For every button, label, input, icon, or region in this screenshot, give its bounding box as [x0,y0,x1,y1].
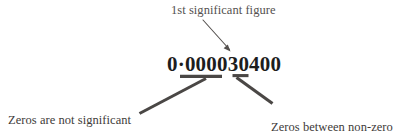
significant-figures-diagram: 1st significant figure 0·000030400 Zeros… [0,0,409,133]
right-annotation-leader-line [237,78,273,104]
first-significant-figure-arrow-icon [203,20,231,52]
left-annotation-leader-line [140,79,207,114]
diagram-lines-layer [0,0,409,133]
